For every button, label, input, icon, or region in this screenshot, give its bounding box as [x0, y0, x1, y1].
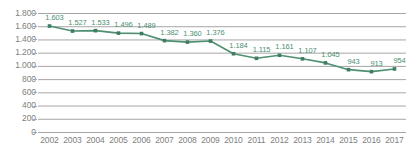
data-point-label: 1.045 — [321, 51, 339, 59]
y-axis-tick-mark — [33, 119, 37, 120]
y-axis-tick-mark — [33, 132, 37, 133]
data-point-marker[interactable] — [94, 29, 98, 33]
x-axis-tick-label: 2016 — [362, 136, 381, 145]
data-point-label: 1.107 — [298, 47, 316, 55]
x-axis-tick-label: 2005 — [109, 136, 128, 145]
data-point-label: 1.115 — [253, 46, 271, 54]
data-point-label: 1.496 — [114, 21, 132, 29]
data-point-marker[interactable] — [278, 53, 282, 57]
y-axis-tick-label: 200 — [2, 114, 36, 123]
data-point-label: 913 — [370, 60, 382, 68]
data-point-marker[interactable] — [255, 56, 259, 60]
data-point-marker[interactable] — [324, 61, 328, 65]
x-axis-tick-label: 2003 — [63, 136, 82, 145]
data-point-marker[interactable] — [301, 57, 305, 61]
data-point-marker[interactable] — [71, 29, 75, 33]
line-chart: 1.8001.6001.4001.2001.0008006004002000 2… — [0, 0, 412, 154]
y-axis-tick-label: 1.600 — [2, 22, 36, 31]
data-point-label: 1.184 — [229, 42, 247, 50]
data-point-marker[interactable] — [163, 39, 167, 43]
x-axis-tick-label: 2010 — [224, 136, 243, 145]
x-axis-tick-label: 2004 — [86, 136, 105, 145]
y-axis-tick-label: 1.200 — [2, 48, 36, 57]
y-axis-tick-mark — [33, 53, 37, 54]
data-point-label: 1.161 — [275, 43, 293, 51]
data-point-marker[interactable] — [117, 31, 121, 35]
data-point-marker[interactable] — [370, 70, 374, 74]
y-axis-tick-label: 800 — [2, 75, 36, 84]
y-axis-tick-label: 1.800 — [2, 9, 36, 18]
data-point-label: 1.527 — [68, 19, 86, 27]
y-axis-tick-label: 600 — [2, 88, 36, 97]
y-axis-tick-mark — [33, 13, 37, 14]
y-axis-tick-mark — [33, 92, 37, 93]
x-axis-tick-label: 2011 — [248, 136, 266, 145]
x-axis-tick-label: 2013 — [293, 136, 312, 145]
data-point-marker[interactable] — [393, 67, 397, 71]
data-point-label: 1.533 — [91, 19, 109, 27]
data-point-label: 1.376 — [206, 29, 224, 37]
data-point-label: 1.382 — [160, 29, 178, 37]
y-axis-tick-label: 0 — [2, 128, 36, 137]
y-axis-tick-mark — [33, 106, 37, 107]
data-point-marker[interactable] — [209, 39, 213, 43]
data-point-marker[interactable] — [140, 32, 144, 36]
x-axis-tick-label: 2017 — [385, 136, 404, 145]
y-axis-tick-mark — [33, 39, 37, 40]
data-point-label: 954 — [393, 57, 405, 65]
y-axis-tick-label: 1.000 — [2, 61, 36, 70]
data-point-label: 1.489 — [137, 22, 155, 30]
x-axis-tick-label: 2009 — [201, 136, 220, 145]
x-axis-tick-label: 2006 — [132, 136, 151, 145]
x-axis-tick-label: 2007 — [155, 136, 174, 145]
x-axis-tick-label: 2002 — [40, 136, 59, 145]
data-point-marker[interactable] — [232, 52, 236, 56]
data-point-marker[interactable] — [48, 24, 52, 28]
y-axis-tick-mark — [33, 79, 37, 80]
x-axis-tick-label: 2014 — [316, 136, 335, 145]
x-axis-tick-label: 2012 — [270, 136, 289, 145]
data-point-marker[interactable] — [186, 40, 190, 44]
y-axis-tick-label: 400 — [2, 101, 36, 110]
y-axis-tick-mark — [33, 66, 37, 67]
y-axis-tick-mark — [33, 26, 37, 27]
y-axis-tick-label: 1.400 — [2, 35, 36, 44]
data-point-label: 1.603 — [45, 14, 63, 22]
data-point-label: 1.360 — [183, 30, 201, 38]
x-axis-tick-label: 2008 — [178, 136, 197, 145]
data-point-marker[interactable] — [347, 68, 351, 72]
x-axis-tick-label: 2015 — [339, 136, 358, 145]
data-point-label: 943 — [347, 58, 359, 66]
